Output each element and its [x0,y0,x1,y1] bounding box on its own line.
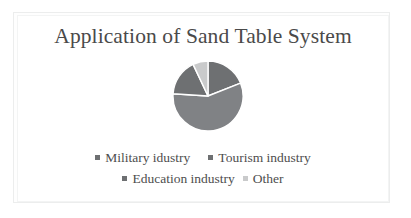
chart-legend: Military idustry Tourism industry Educat… [17,147,389,189]
legend-item-tourism-industry[interactable]: Tourism industry [208,149,310,166]
legend-marker-icon [122,176,127,181]
legend-marker-icon [243,176,248,181]
pie-chart [172,60,244,132]
legend-item-other[interactable]: Other [243,170,284,187]
legend-item-military-idustry[interactable]: Military idustry [95,149,190,166]
legend-label: Education industry [132,170,234,187]
chart-title: Application of Sand Table System [17,23,389,49]
plot-area: Application of Sand Table System Militar… [17,15,389,202]
legend-row: Military idustry Tourism industry [17,147,389,168]
legend-label: Other [253,170,284,187]
legend-label: Military idustry [105,149,190,166]
chart-figure: Application of Sand Table System Militar… [0,0,411,218]
legend-row: Education industry Other [17,168,389,189]
legend-item-education-industry[interactable]: Education industry [122,170,234,187]
legend-marker-icon [208,155,213,160]
pie-slice-group [173,61,243,131]
legend-marker-icon [95,155,100,160]
legend-label: Tourism industry [218,149,310,166]
pie-chart-svg [172,60,244,132]
